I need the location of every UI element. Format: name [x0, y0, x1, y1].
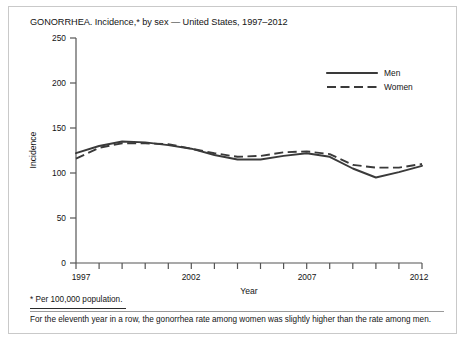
- series-line-men: [76, 142, 422, 178]
- y-tick-label: 0: [61, 258, 66, 268]
- footnote-divider: [30, 308, 126, 309]
- x-tick-label: 2007: [298, 272, 317, 282]
- x-axis-tick-labels: 1997 2002 2007 2012: [72, 272, 429, 282]
- caption-divider: [30, 311, 444, 312]
- x-tick-label: 1997: [72, 272, 91, 282]
- y-tick-label: 50: [57, 213, 67, 223]
- y-tick-label: 200: [52, 78, 66, 88]
- legend-label-women: Women: [384, 82, 413, 92]
- legend-label-men: Men: [384, 68, 401, 78]
- y-axis-ticks: [70, 38, 76, 263]
- y-tick-label: 250: [52, 33, 66, 43]
- x-tick-label: 2012: [410, 272, 429, 282]
- series-line-women: [76, 143, 422, 167]
- y-axis-tick-labels: 250 200 150 100 50 0: [52, 33, 66, 268]
- x-tick-label: 2002: [182, 272, 201, 282]
- x-axis-title: Year: [240, 286, 258, 296]
- y-tick-label: 100: [52, 168, 66, 178]
- figure-caption: For the eleventh year in a row, the gono…: [30, 315, 431, 324]
- chart-plot-area: 250 200 150 100 50 0 Incidence: [9, 7, 458, 335]
- y-axis-title: Incidence: [28, 131, 38, 168]
- chart-legend: Men Women: [327, 68, 413, 92]
- figure-panel: GONORRHEA. Incidence,* by sex — United S…: [8, 6, 457, 334]
- y-tick-label: 150: [52, 123, 66, 133]
- figure-footnote: * Per 100,000 population.: [30, 295, 122, 304]
- x-axis-ticks: [76, 263, 422, 269]
